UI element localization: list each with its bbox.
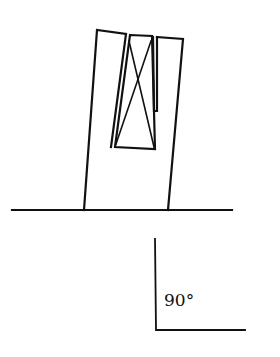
slot	[153, 37, 157, 111]
angle-label: 90°	[164, 290, 194, 310]
right-angle-marker	[155, 239, 245, 330]
diagram-canvas: 90°	[0, 0, 280, 357]
diagram-drawing	[0, 0, 280, 357]
inset-panel	[115, 35, 155, 149]
